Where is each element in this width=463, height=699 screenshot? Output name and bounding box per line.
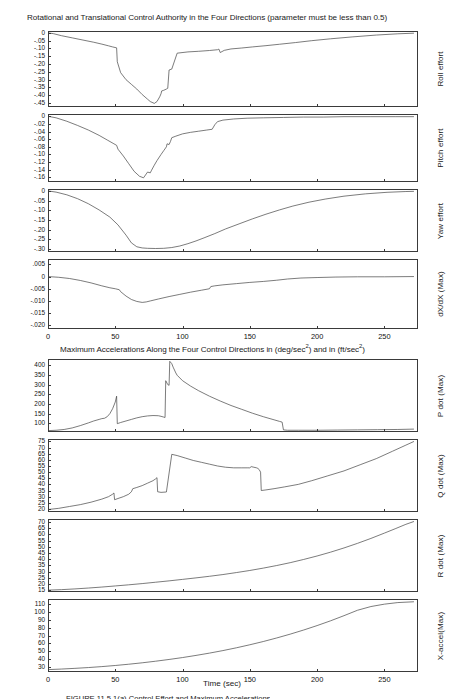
y-tick-mark	[48, 48, 51, 49]
x-tick-label: 250	[378, 332, 390, 341]
y-tick-mark	[48, 375, 51, 376]
y-tick-label: 0	[41, 30, 45, 36]
x-tick-label: 0	[46, 675, 50, 684]
series-line	[48, 521, 414, 590]
x-tick-mark	[183, 429, 184, 432]
x-tick-label: 50	[111, 332, 119, 341]
x-tick-label: 0	[46, 332, 50, 341]
y-tick-mark	[48, 41, 51, 42]
y-axis-labels: 0-.05-.10-.15-.20-.25-.30-.35-.40-.45	[4, 31, 45, 107]
y-tick-label: 40	[38, 656, 45, 662]
y-tick-mark	[48, 491, 51, 492]
y-tick-label: 90	[38, 616, 45, 622]
y-tick-mark	[48, 191, 51, 192]
x-tick-mark	[115, 326, 116, 329]
y-axis-labels: 0-.02-.04-.06-.08-.10-.12-.14-.16	[4, 114, 45, 182]
y-tick-mark	[48, 667, 51, 668]
y-tick-label: .005	[33, 261, 45, 267]
y-tick-label: -.04	[34, 128, 45, 134]
y-tick-label: 70	[38, 632, 45, 638]
y-tick-mark	[48, 643, 51, 644]
y-tick-mark	[48, 394, 51, 395]
y-tick-mark	[48, 651, 51, 652]
y-tick-mark	[48, 578, 51, 579]
y-tick-mark	[48, 201, 51, 202]
y-tick-mark	[48, 628, 51, 629]
y-tick-label: -.10	[34, 151, 45, 157]
x-tick-label: 100	[176, 675, 188, 684]
x-tick-mark	[115, 429, 116, 432]
x-tick-mark	[384, 326, 385, 329]
x-tick-mark	[317, 669, 318, 672]
x-tick-mark	[250, 429, 251, 432]
x-tick-mark	[250, 249, 251, 252]
y-tick-mark	[48, 87, 51, 88]
y-tick-label: 200	[34, 401, 45, 407]
data-curve-svg	[48, 519, 418, 592]
y-tick-mark	[48, 239, 51, 240]
y-tick-label: -.30	[34, 246, 45, 252]
y-tick-label: -.16	[34, 174, 45, 180]
y-axis-labels: 0-.05-.10-.15-.20-.25-.30	[4, 189, 45, 252]
x-tick-mark	[384, 509, 385, 512]
panel-roll-effort: 0-.05-.10-.15-.20-.25-.30-.35-.40-.45Rol…	[48, 31, 418, 107]
y-tick-mark	[48, 72, 51, 73]
y-tick-mark	[48, 116, 51, 117]
x-tick-mark	[384, 589, 385, 592]
series-line	[48, 116, 414, 178]
y-tick-mark	[48, 478, 51, 479]
panel-dxdx-max: .0050-.005-.010-.015-.020dX/dX (Max)	[48, 259, 418, 329]
y-tick-mark	[48, 604, 51, 605]
x-tick-mark	[183, 589, 184, 592]
y-tick-mark	[48, 454, 51, 455]
y-tick-mark	[48, 534, 51, 535]
x-tick-mark	[48, 104, 49, 107]
x-tick-mark	[48, 669, 49, 672]
y-tick-label: 0	[41, 113, 45, 119]
x-tick-mark	[317, 589, 318, 592]
y-tick-mark	[48, 636, 51, 637]
y-tick-mark	[48, 33, 51, 34]
mid-section-title: Maximum Accelerations Along the Four Con…	[60, 343, 365, 354]
x-tick-mark	[48, 249, 49, 252]
axis-label-p-dot-max: P dot (Max)	[436, 374, 445, 416]
mid-title-part3: )	[362, 345, 365, 354]
x-tick-mark	[317, 104, 318, 107]
y-tick-mark	[48, 565, 51, 566]
y-tick-mark	[48, 277, 51, 278]
series-line	[48, 602, 414, 670]
x-tick-mark	[183, 249, 184, 252]
x-axis-tick-labels: 050100150200250	[48, 675, 418, 685]
y-tick-mark	[48, 220, 51, 221]
figure-caption: FIGURE 11.5.1(a) Control Effort and Maxi…	[66, 694, 270, 699]
series-line	[48, 33, 414, 104]
x-tick-mark	[384, 249, 385, 252]
y-tick-mark	[48, 365, 51, 366]
y-tick-label: 15	[38, 587, 45, 593]
x-tick-mark	[48, 179, 49, 182]
y-tick-label: 100	[34, 420, 45, 426]
y-tick-label: -.015	[30, 310, 45, 316]
y-tick-mark	[48, 170, 51, 171]
y-tick-label: 80	[38, 624, 45, 630]
x-tick-mark	[317, 429, 318, 432]
y-tick-mark	[48, 584, 51, 585]
x-tick-mark	[115, 179, 116, 182]
y-tick-mark	[48, 547, 51, 548]
x-tick-mark	[317, 509, 318, 512]
figure-container: Rotational and Translational Control Aut…	[0, 0, 463, 699]
x-tick-mark	[183, 326, 184, 329]
y-tick-label: -.10	[34, 207, 45, 213]
axis-label-roll-effort: Roll effort	[436, 51, 445, 86]
y-tick-label: -.02	[34, 121, 45, 127]
y-tick-label: -.25	[34, 69, 45, 75]
series-line	[48, 191, 414, 249]
x-tick-mark	[317, 249, 318, 252]
x-tick-mark	[183, 509, 184, 512]
y-axis-labels: 11010090807060504030	[4, 599, 45, 672]
y-tick-mark	[48, 95, 51, 96]
y-tick-label: -.10	[34, 45, 45, 51]
x-tick-mark	[183, 104, 184, 107]
mid-title-part2: ) and in (ft/sec	[309, 345, 359, 354]
y-tick-label: 0	[41, 273, 45, 279]
